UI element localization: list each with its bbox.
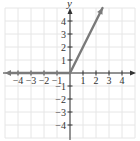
- y-tick-label: 1: [61, 55, 66, 66]
- piece-right: [70, 8, 103, 73]
- graph: −4−3−2−11234−4−3−2−11234 y: [0, 0, 140, 141]
- y-tick-label: 4: [61, 16, 66, 27]
- x-tick-label: 2: [94, 75, 99, 86]
- x-tick-label: −4: [13, 75, 24, 86]
- y-tick-label: −3: [55, 107, 66, 118]
- x-tick-label: 1: [81, 75, 86, 86]
- y-tick-label: 3: [61, 29, 66, 40]
- x-tick-label: −3: [26, 75, 37, 86]
- y-tick-label: 2: [61, 42, 66, 53]
- y-tick-label: −4: [55, 120, 66, 131]
- y-axis-label: y: [66, 0, 72, 9]
- y-tick-label: −1: [55, 81, 66, 92]
- y-tick-label: −2: [55, 94, 66, 105]
- x-tick-label: −2: [39, 75, 50, 86]
- x-tick-label: 3: [107, 75, 112, 86]
- piece-left-arrow-icon: [5, 70, 11, 76]
- x-tick-label: 4: [120, 75, 125, 86]
- function-graph: [5, 8, 103, 76]
